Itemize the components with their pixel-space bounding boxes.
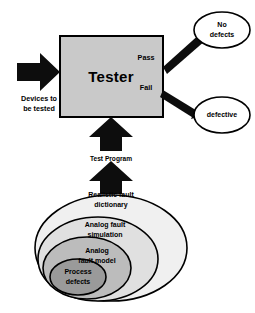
fail-branch-label: Fail (140, 83, 152, 92)
defective-label: defective (207, 111, 237, 118)
hierarchy-label-2-line2: simulation (87, 231, 122, 238)
no-defects-line2: defects (210, 31, 235, 38)
hierarchy-label-2-line1: Analog fault (85, 221, 126, 229)
test-program-arrow-upper (89, 117, 133, 151)
test-program-arrow-lower (89, 161, 133, 194)
pass-branch-label: Pass (138, 53, 155, 62)
hierarchy-label-1-line1: Realistic fault (88, 191, 134, 198)
devices-label-line2: be tested (23, 104, 55, 113)
devices-label-line1: Devices to (21, 94, 58, 103)
devices-input-arrow (17, 53, 60, 91)
test-flow-diagram: Tester Devices to be tested Pass No defe… (0, 0, 255, 313)
hierarchy-label-4-line2: defects (66, 278, 91, 285)
no-defects-line1: No (217, 21, 226, 28)
hierarchy-label-1-line2: dictionary (94, 201, 128, 209)
tester-label: Tester (88, 68, 134, 85)
hierarchy-label-3-line2: fault model (78, 257, 115, 264)
hierarchy-label-3-line1: Analog (85, 247, 109, 255)
hierarchy-label-4-line1: Process (64, 268, 91, 275)
diagram-canvas: Tester Devices to be tested Pass No defe… (0, 0, 255, 313)
